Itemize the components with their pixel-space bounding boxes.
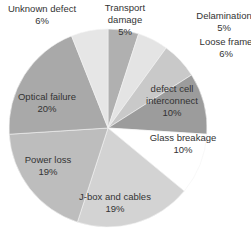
data-label-delamination: Delamination5% — [196, 10, 251, 33]
data-label-unknown-defect: Unknown defect6% — [8, 3, 76, 26]
data-label-loose-frame: Loose frame6% — [200, 36, 251, 59]
pie-chart: Transportdamage5%Delamination5%Loose fra… — [0, 0, 251, 238]
